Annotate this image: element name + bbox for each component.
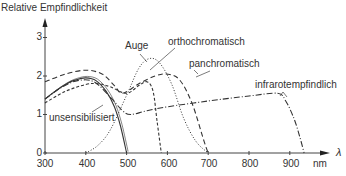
x-unit-label: nm [313,158,327,169]
label-infrarotempfindlich: infrarotempfindlich [255,79,337,90]
curves [45,58,304,153]
leader-infra-2 [283,92,287,97]
x-tick-300: 300 [30,158,60,169]
leader-pan [194,70,198,74]
x-axis-arrow-icon [320,151,330,156]
label-orthochromatisch: orthochromatisch [168,36,245,47]
y-tick-0: 0 [32,147,42,158]
x-tick-700: 700 [194,158,224,169]
y-tick-3: 3 [32,31,42,42]
x-tick-900: 900 [276,158,306,169]
label-unsensibilisiert: unsensibilisiert [49,112,115,123]
y-tick-2: 2 [32,70,42,81]
leader-auge [140,54,147,62]
x-tick-600: 600 [154,158,184,169]
leader-unsens [92,105,103,112]
lambda-symbol: λ [336,146,341,158]
x-tick-800: 800 [235,158,265,169]
y-axis-title: Relative Empfindlichkeit [1,2,107,13]
x-tick-400: 400 [72,158,102,169]
y-axis-arrow-icon [43,18,48,27]
leader-pan-2 [196,71,210,77]
label-panchromatisch: panchromatisch [189,58,260,69]
y-tick-1: 1 [32,108,42,119]
curve-auge [86,58,208,153]
x-tick-500: 500 [113,158,143,169]
label-auge: Auge [125,40,148,51]
